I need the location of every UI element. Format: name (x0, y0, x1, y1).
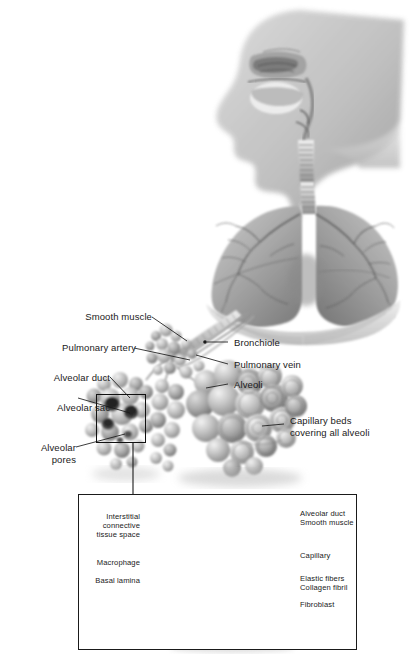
label-alveolar-duct: Alveolar duct (22, 372, 110, 384)
label-capillary-beds: Capillary beds covering all alveoli (290, 415, 370, 438)
label-alveolar-sac: Alveolar sac (22, 402, 110, 414)
label-alveolar-pores: Alveolar pores (16, 442, 76, 465)
label-bronchiole: Bronchiole (234, 337, 280, 349)
label-pulmonary-artery: Pulmonary artery (26, 342, 136, 354)
label-elastic-fibers: Elastic fibers (300, 574, 344, 583)
label-fibroblast: Fibroblast (300, 600, 334, 609)
label-capillary: Capillary (300, 551, 330, 560)
label-basal-lamina: Basal lamina (72, 576, 140, 585)
label-interstitial-connective-tissue-space: Interstitial connective tissue space (84, 512, 140, 539)
label-smooth-muscle: Smooth muscle (56, 311, 152, 323)
label-inset-alveolar-duct: Alveolar duct (300, 509, 345, 518)
label-macrophage: Macrophage (76, 558, 140, 567)
label-alveoli: Alveoli (234, 379, 263, 391)
label-inset-smooth-muscle: Smooth muscle (300, 518, 354, 527)
label-pulmonary-vein: Pulmonary vein (234, 359, 301, 371)
label-collagen-fibril: Collagen fibril (300, 583, 348, 592)
